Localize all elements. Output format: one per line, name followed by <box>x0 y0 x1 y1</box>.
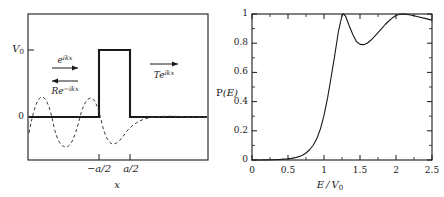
xlabel-a-over-2: a/2 <box>123 164 139 174</box>
ytick-label: 0.6 <box>234 67 248 76</box>
chart-frame <box>252 14 432 160</box>
xlabel-minus-a-over-2: −a/2 <box>87 164 111 174</box>
incident-wave-label: eikx <box>57 55 72 65</box>
ytick-label: 0.8 <box>234 38 248 47</box>
ylabel-v0: V0 <box>12 44 24 56</box>
xaxis-title-e-over-v0: E / V0 <box>317 180 343 192</box>
xtick-label: 1.5 <box>353 166 367 175</box>
xtick-label: 1 <box>321 166 327 175</box>
xaxis-title: x <box>114 180 120 190</box>
chart-axes <box>252 14 432 160</box>
potential-barrier-panel: V0 0 −a/2 a/2 x eikx Re−ikx Teikx <box>0 0 222 197</box>
ylabel-zero: 0 <box>18 112 24 121</box>
transmitted-arrow-head <box>172 61 178 66</box>
wavefunction-dashed-curve <box>29 97 207 147</box>
ytick-label: 0.2 <box>234 126 248 135</box>
xtick-label: 2.5 <box>425 166 439 175</box>
transmission-probability-panel: 00.511.522.500.20.40.60.81 P(E) E / V0 <box>222 0 444 197</box>
potential-barrier-curve <box>29 50 207 117</box>
xtick-label: 2 <box>393 166 399 175</box>
ytick-label: 1 <box>242 9 248 18</box>
incident-arrow-head <box>72 65 78 70</box>
xtick-label: 0 <box>249 166 255 175</box>
transmission-chart-svg <box>222 0 444 197</box>
two-panel-quantum-tunneling-figure: V0 0 −a/2 a/2 x eikx Re−ikx Teikx 00.511… <box>0 0 444 197</box>
reflected-arrow-head <box>52 78 58 83</box>
transmission-probability-curve <box>252 14 432 160</box>
transmitted-wave-label: Teikx <box>154 70 174 80</box>
reflected-wave-label: Re−ikx <box>51 86 78 96</box>
yaxis-title-pe: P(E) <box>216 88 238 98</box>
ytick-label: 0 <box>242 155 248 164</box>
xtick-label: 0.5 <box>281 166 295 175</box>
